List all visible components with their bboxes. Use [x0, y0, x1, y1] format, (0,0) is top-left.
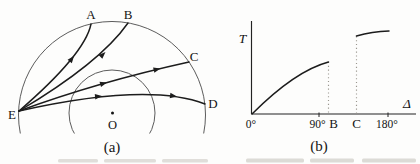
direction-arrow-icon: [100, 80, 108, 87]
curve-lower-branch: [252, 62, 329, 114]
tick-label-C: C: [352, 116, 361, 131]
ray-E-to-B: [19, 23, 128, 111]
figure-svg: A B C D E O (a) T Δ 0° 90° B C 180° (b): [0, 0, 420, 164]
tick-label-90: 90°: [309, 118, 326, 130]
x-axis-label: Δ: [402, 96, 411, 111]
point-label-O: O: [108, 118, 117, 132]
point-label-A: A: [86, 7, 96, 22]
figure-a-caption: (a): [104, 139, 121, 156]
point-label-C: C: [190, 49, 199, 64]
figure-a: A B C D E O (a): [8, 7, 218, 164]
ray-E-to-C: [19, 62, 189, 111]
figure-b-caption: (b): [310, 138, 328, 155]
center-dot: [111, 112, 114, 115]
physics-figure-panel: A B C D E O (a) T Δ 0° 90° B C 180° (b): [0, 0, 420, 164]
tick-label-0: 0°: [246, 118, 257, 130]
tick-label-B: B: [329, 116, 338, 131]
cropped-text-artifact: [58, 159, 416, 163]
point-label-E: E: [8, 107, 16, 122]
ray-E-to-D: [19, 95, 205, 111]
direction-arrow-icon: [170, 93, 178, 99]
tick-label-180: 180°: [376, 118, 398, 130]
figure-b: T Δ 0° 90° B C 180° (b): [239, 21, 416, 155]
y-axis-label: T: [239, 31, 248, 46]
point-label-B: B: [124, 7, 133, 22]
point-label-D: D: [208, 96, 217, 111]
curve-upper-branch: [357, 31, 390, 36]
direction-arrow-icon: [95, 93, 103, 99]
